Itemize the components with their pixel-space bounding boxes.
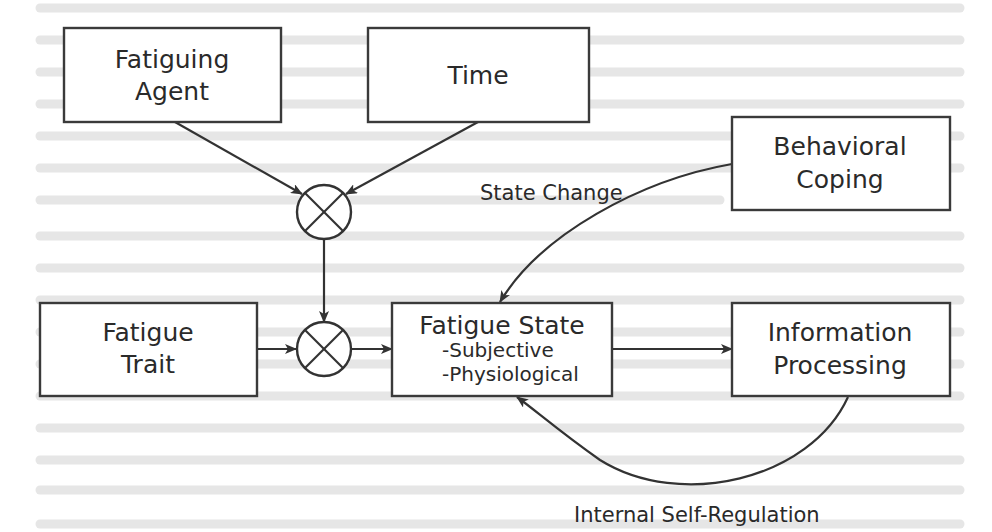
edge-info-to-state-curve <box>517 397 848 484</box>
time-label: Time <box>446 61 508 90</box>
edge-label-state-change: State Change <box>480 181 623 205</box>
fatigue-trait-line2: Trait <box>120 350 175 379</box>
information-processing-line1: Information <box>768 318 913 347</box>
multiply-node-top <box>297 185 351 239</box>
fatigue-state-item-physiological: -Physiological <box>442 362 579 386</box>
behavioral-coping-line2: Coping <box>796 165 883 194</box>
fatigue-trait-line1: Fatigue <box>102 318 193 347</box>
edge-label-internal-self-regulation: Internal Self-Regulation <box>574 503 820 527</box>
fatigue-state-title: Fatigue State <box>419 311 584 340</box>
node-information-processing: Information Processing <box>732 303 950 396</box>
node-fatiguing-agent: Fatiguing Agent <box>64 28 281 122</box>
fatigue-model-diagram: Fatiguing Agent Time Behavioral Coping F… <box>0 0 992 532</box>
node-time: Time <box>368 28 589 122</box>
node-fatigue-state: Fatigue State -Subjective -Physiological <box>392 303 612 396</box>
fatiguing-agent-line2: Agent <box>135 77 209 106</box>
fatigue-state-item-subjective: -Subjective <box>442 338 554 362</box>
information-processing-line2: Processing <box>773 351 907 380</box>
behavioral-coping-line1: Behavioral <box>773 132 906 161</box>
node-behavioral-coping: Behavioral Coping <box>732 117 950 210</box>
fatiguing-agent-line1: Fatiguing <box>115 45 230 74</box>
multiply-node-bottom <box>297 322 351 376</box>
node-fatigue-trait: Fatigue Trait <box>40 303 257 396</box>
